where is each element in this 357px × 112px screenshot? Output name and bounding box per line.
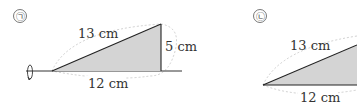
figure-a: ㉠ 13 cm 5 cm 12 cm — [14, 10, 198, 92]
marker-a: ㉠ — [16, 12, 25, 22]
base-label-a: 12 cm — [88, 76, 128, 91]
figure-b: ㉡ 13 cm 12 cm — [254, 10, 357, 106]
rotation-arrow-icon — [28, 65, 33, 79]
base-label-b: 12 cm — [300, 90, 340, 105]
height-label-a: 5 cm — [165, 39, 197, 54]
diagram-canvas: ㉠ 13 cm 5 cm 12 cm ㉡ 13 cm 12 cm — [0, 0, 357, 112]
hypotenuse-label-a: 13 cm — [78, 26, 118, 41]
hypotenuse-label-b: 13 cm — [290, 38, 330, 53]
marker-b: ㉡ — [256, 12, 265, 22]
